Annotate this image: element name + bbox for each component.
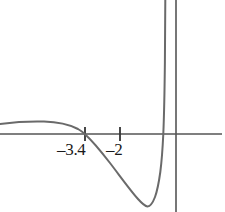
tick-label-minus-2: –2 <box>106 141 122 158</box>
tick-label-minus-3-4: –3.4 <box>57 141 86 158</box>
polynomial-curve <box>0 0 165 206</box>
polynomial-graph-figure: –3.4 –2 <box>0 0 225 212</box>
plot-canvas <box>0 0 225 212</box>
